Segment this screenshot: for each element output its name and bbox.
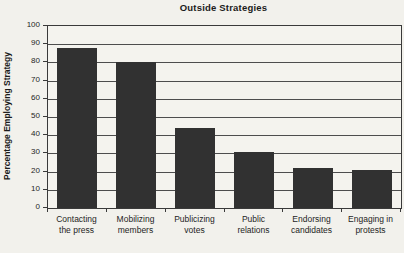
bar-public-relations: [234, 152, 274, 208]
bar-publicizing-votes: [175, 128, 215, 208]
bar-engaging-in-protests: [352, 170, 392, 208]
y-tick-label-100: 100: [14, 21, 40, 29]
y-tick-label-30: 30: [14, 148, 40, 156]
bar-endorsing-candidates: [293, 168, 333, 208]
y-tick-label-90: 90: [14, 39, 40, 47]
y-tick-label-50: 50: [14, 112, 40, 120]
y-tick-mark-40: [43, 134, 47, 135]
y-tick-mark-70: [43, 80, 47, 81]
x-category-label-0: Contacting the press: [43, 214, 110, 236]
gridline-y-50: [48, 117, 401, 118]
y-tick-mark-50: [43, 116, 47, 117]
x-category-label-3: Public relations: [220, 214, 287, 236]
x-tick-mark-5: [341, 208, 342, 212]
gridline-y-10: [48, 190, 401, 191]
x-category-label-2: Publicizing votes: [161, 214, 228, 236]
y-tick-mark-80: [43, 61, 47, 62]
bar-contacting-the-press: [57, 48, 97, 208]
x-tick-mark-3: [224, 208, 225, 212]
x-category-label-4: Endorsing candidates: [278, 214, 345, 236]
y-tick-label-10: 10: [14, 185, 40, 193]
y-tick-label-80: 80: [14, 57, 40, 65]
bar-mobilizing-members: [116, 62, 156, 208]
gridline-y-40: [48, 135, 401, 136]
gridline-y-60: [48, 99, 401, 100]
y-tick-mark-100: [43, 25, 47, 26]
y-tick-label-40: 40: [14, 130, 40, 138]
x-category-label-5: Engaging in protests: [337, 214, 404, 236]
x-tick-mark-1: [106, 208, 107, 212]
chart-title: Outside Strategies: [47, 2, 400, 13]
gridline-y-90: [48, 44, 401, 45]
x-category-label-1: Mobilizing members: [102, 214, 169, 236]
plot-area: [47, 25, 402, 209]
x-tick-mark-0: [47, 208, 48, 212]
y-tick-mark-30: [43, 152, 47, 153]
gridline-y-30: [48, 153, 401, 154]
y-tick-mark-20: [43, 171, 47, 172]
y-tick-label-20: 20: [14, 167, 40, 175]
x-tick-mark-4: [282, 208, 283, 212]
gridline-y-80: [48, 62, 401, 63]
y-tick-label-70: 70: [14, 76, 40, 84]
gridline-y-20: [48, 172, 401, 173]
bar-chart-figure: Outside Strategies Percentage Employing …: [0, 0, 404, 253]
y-tick-mark-10: [43, 189, 47, 190]
y-tick-mark-60: [43, 98, 47, 99]
gridline-y-70: [48, 81, 401, 82]
x-tick-mark-2: [165, 208, 166, 212]
y-tick-label-0: 0: [14, 203, 40, 211]
y-tick-mark-90: [43, 43, 47, 44]
y-tick-label-60: 60: [14, 94, 40, 102]
x-tick-mark-6: [400, 208, 401, 212]
